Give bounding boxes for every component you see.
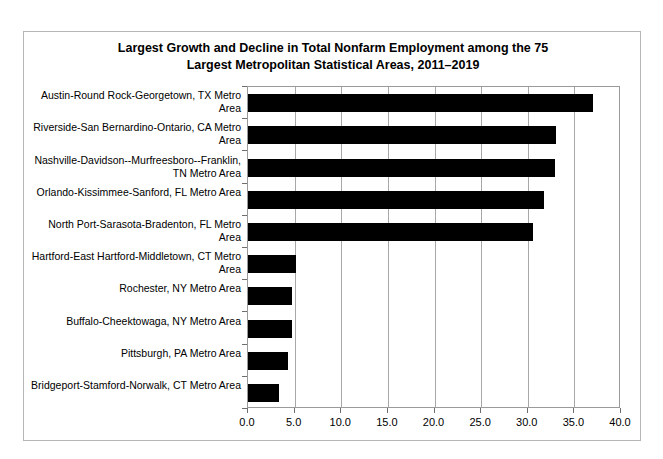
- plot-wrapper: Austin-Round Rock-Georgetown, TX Metro A…: [24, 32, 642, 442]
- x-axis-tick: [620, 408, 621, 413]
- category-label: Riverside-San Bernardino-Ontario, CA Met…: [29, 121, 241, 147]
- x-axis-tick: [247, 408, 248, 413]
- y-axis-tick: [242, 408, 247, 409]
- x-axis-tick-label: 15.0: [364, 416, 410, 428]
- x-axis-tick-label: 20.0: [411, 416, 457, 428]
- x-axis-tick: [387, 408, 388, 413]
- category-label: North Port-Sarasota-Bradenton, FL Metro …: [29, 218, 241, 244]
- y-axis-tick: [242, 86, 247, 87]
- category-label: Rochester, NY Metro Area: [29, 282, 241, 295]
- y-axis-tick: [242, 215, 247, 216]
- bar-row: [248, 223, 619, 241]
- x-axis-tick: [480, 408, 481, 413]
- bar[interactable]: [248, 126, 556, 144]
- category-label: Bridgeport-Stamford-Norwalk, CT Metro Ar…: [29, 379, 241, 392]
- x-axis-tick-label: 0.0: [224, 416, 270, 428]
- figure-frame: Largest Growth and Decline in Total Nonf…: [23, 31, 641, 441]
- x-axis-tick: [434, 408, 435, 413]
- y-axis-tick: [242, 311, 247, 312]
- bar-row: [248, 287, 619, 305]
- bar-row: [248, 159, 619, 177]
- y-axis-tick: [242, 150, 247, 151]
- bar[interactable]: [248, 223, 533, 241]
- bar-row: [248, 352, 619, 370]
- bar-row: [248, 126, 619, 144]
- y-axis-tick: [242, 376, 247, 377]
- category-label: Orlando-Kissimmee-Sanford, FL Metro Area: [29, 186, 241, 199]
- bar[interactable]: [248, 352, 288, 370]
- bar[interactable]: [248, 384, 279, 402]
- x-axis-tick-label: 40.0: [597, 416, 643, 428]
- category-label: Pittsburgh, PA Metro Area: [29, 347, 241, 360]
- y-axis-tick: [242, 183, 247, 184]
- bar-row: [248, 94, 619, 112]
- x-axis-tick-label: 5.0: [271, 416, 317, 428]
- bar[interactable]: [248, 255, 296, 273]
- bar[interactable]: [248, 287, 292, 305]
- bar-row: [248, 191, 619, 209]
- x-axis-tick: [573, 408, 574, 413]
- plot-area-inner: [248, 87, 619, 407]
- x-axis-tick: [527, 408, 528, 413]
- category-label: Nashville-Davidson--Murfreesboro--Frankl…: [29, 154, 241, 180]
- bar-row: [248, 384, 619, 402]
- bar[interactable]: [248, 159, 555, 177]
- category-label: Buffalo-Cheektowaga, NY Metro Area: [29, 315, 241, 328]
- x-axis-tick: [294, 408, 295, 413]
- x-axis-tick-label: 30.0: [504, 416, 550, 428]
- y-axis-tick: [242, 247, 247, 248]
- bar[interactable]: [248, 191, 544, 209]
- x-axis-tick-label: 10.0: [317, 416, 363, 428]
- bar[interactable]: [248, 320, 292, 338]
- x-axis-tick: [340, 408, 341, 413]
- bar[interactable]: [248, 94, 593, 112]
- bar-row: [248, 255, 619, 273]
- y-axis-tick: [242, 344, 247, 345]
- bar-row: [248, 320, 619, 338]
- x-axis-tick-label: 25.0: [457, 416, 503, 428]
- y-axis-tick: [242, 118, 247, 119]
- x-axis-tick-label: 35.0: [550, 416, 596, 428]
- category-label: Austin-Round Rock-Georgetown, TX Metro A…: [29, 89, 241, 115]
- category-label: Hartford-East Hartford-Middletown, CT Me…: [29, 250, 241, 276]
- y-axis-tick: [242, 279, 247, 280]
- plot-area: [247, 86, 620, 408]
